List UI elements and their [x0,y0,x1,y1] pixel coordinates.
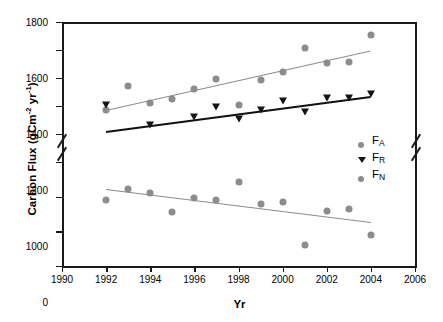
x-tick-label-2002: 2002 [316,274,338,285]
legend-marker-circle-icon [358,176,364,182]
x-tick-2002 [327,266,328,272]
data-point-FA-2004 [367,32,374,39]
x-tick-label-1998: 1998 [227,274,249,285]
data-point-FA-1996 [191,85,198,92]
data-point-FA-2001 [301,44,308,51]
axis-spine-left [62,22,64,268]
x-tick-2004 [371,266,372,272]
legend-label-FN: FN [372,168,385,182]
legend-marker-triangle-down-icon [358,157,366,163]
data-point-FN-2002 [323,207,330,214]
y-tick-1600: 1600 [56,50,62,51]
legend-marker-circle-icon [358,142,364,148]
x-tick-1996 [194,266,195,272]
x-tick-1992 [106,266,107,272]
y-tick-label-1000: 1000 [26,241,48,252]
data-point-FR-2000 [279,97,287,104]
data-point-FN-1999 [257,200,264,207]
x-axis-title-text: Yr [233,298,245,310]
x-tick-1994 [150,266,151,272]
data-point-FA-1997 [213,76,220,83]
x-axis-title: Yr [0,298,443,310]
y-tick--200: -200 [56,197,62,198]
legend-label-FR: FR [372,151,385,165]
data-point-FR-1998 [235,116,243,123]
data-point-FN-1994 [147,190,154,197]
data-point-FN-2004 [367,231,374,238]
data-point-FA-1999 [257,77,264,84]
x-tick-2000 [283,266,284,272]
data-point-FA-2002 [323,60,330,67]
data-point-FA-1994 [147,99,154,106]
data-point-FN-1992 [103,197,110,204]
x-tick-label-1992: 1992 [95,274,117,285]
data-point-FR-2001 [301,108,309,115]
x-tick-label-1996: 1996 [183,274,205,285]
data-point-FA-1993 [125,82,132,89]
x-tick-1998 [239,266,240,272]
legend-label-FA: FA [372,134,385,148]
x-tick-label-2004: 2004 [360,274,382,285]
y-tick-1200: 1200 [56,106,62,107]
x-tick-label-2006: 2006 [404,274,426,285]
data-point-FN-2000 [279,199,286,206]
data-point-FR-2004 [367,91,375,98]
data-point-FA-2003 [345,59,352,66]
data-point-FR-2003 [345,94,353,101]
data-point-FR-1992 [102,101,110,108]
y-tick-1000: 1000 [56,134,62,135]
y-tick-label-1200: 1200 [26,185,48,196]
data-point-FN-1997 [213,197,220,204]
carbon-flux-scatter-chart: Carbon Flux (gCm-2 yr-1) 100012001400160… [0,0,443,322]
trendline-FN [106,189,371,223]
data-point-FN-1995 [169,208,176,215]
y-tick--400: -400 [56,231,62,232]
data-point-FN-1998 [235,178,242,185]
data-point-FR-1994 [146,122,154,129]
axis-spine-right [415,22,417,268]
y-axis-title-text: Carbon Flux (gCm-2 yr-1) [26,82,38,215]
x-tick-label-2000: 2000 [272,274,294,285]
y-tick-label-1400: 1400 [26,129,48,140]
data-point-FN-2003 [345,206,352,213]
y-tick-1400: 1400 [56,78,62,79]
data-point-FN-1993 [125,186,132,193]
data-point-FN-1996 [191,195,198,202]
y-tick-1800: 1800 [56,22,62,23]
y-tick-label-1800: 1800 [26,17,48,28]
data-point-FA-2000 [279,69,286,76]
x-tick-2006 [415,266,416,272]
x-tick-label-1990: 1990 [51,274,73,285]
data-point-FR-1996 [190,113,198,120]
data-point-FA-1998 [235,102,242,109]
axis-spine-top [62,22,417,24]
data-point-FA-1995 [169,96,176,103]
y-tick-label-1600: 1600 [26,73,48,84]
x-tick-1990 [62,266,63,272]
data-point-FN-2001 [301,241,308,248]
data-point-FR-2002 [323,95,331,102]
y-tick-0: 0 [56,162,62,163]
data-point-FR-1997 [212,103,220,110]
x-tick-label-1994: 1994 [139,274,161,285]
data-point-FR-1999 [257,107,265,114]
